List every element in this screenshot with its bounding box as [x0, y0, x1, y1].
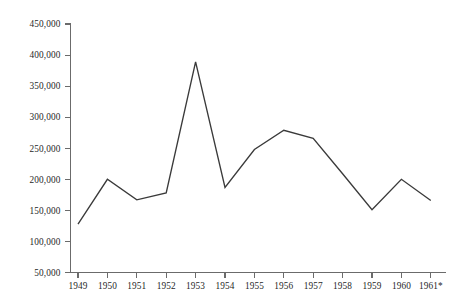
y-axis-tick-label: 100,000: [30, 237, 61, 247]
y-axis-labels: 50,000100,000150,000200,000250,000300,00…: [30, 19, 61, 278]
x-axis-tick-label: 1958: [333, 281, 352, 291]
x-axis-tick-label: 1952: [157, 281, 176, 291]
y-axis-tick-label: 300,000: [30, 112, 61, 122]
y-axis-tick-label: 200,000: [30, 175, 61, 185]
x-axis-tick-label: 1959: [363, 281, 382, 291]
data-series-line: [78, 62, 431, 224]
y-axis-tick-label: 250,000: [30, 144, 61, 154]
x-axis-tick-label: 1949: [69, 281, 88, 291]
x-axis-tick-label: 1961*: [419, 281, 443, 291]
x-axis-tick-label: 1956: [274, 281, 293, 291]
y-axis-tick-label: 150,000: [30, 206, 61, 216]
y-axis-ticks: [65, 24, 71, 273]
x-axis-tick-label: 1957: [304, 281, 323, 291]
x-axis-tick-label: 1960: [392, 281, 411, 291]
x-axis-tick-label: 1954: [216, 281, 235, 291]
x-axis-tick-label: 1953: [186, 281, 205, 291]
x-axis-labels: 1949195019511952195319541955195619571958…: [69, 281, 443, 291]
chart-canvas: 50,000100,000150,000200,000250,000300,00…: [0, 0, 453, 307]
x-axis-tick-label: 1955: [245, 281, 264, 291]
line-chart: 50,000100,000150,000200,000250,000300,00…: [0, 0, 453, 307]
y-axis-tick-label: 450,000: [30, 19, 61, 29]
x-axis-tick-label: 1951: [127, 281, 146, 291]
y-axis-tick-label: 400,000: [30, 50, 61, 60]
y-axis-tick-label: 50,000: [34, 268, 60, 278]
x-axis-ticks: [78, 273, 431, 278]
x-axis-tick-label: 1950: [98, 281, 117, 291]
y-axis-tick-label: 350,000: [30, 81, 61, 91]
